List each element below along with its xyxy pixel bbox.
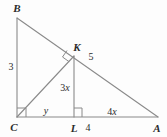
vertex-label-a: A	[153, 123, 160, 134]
vertex-label-l: L	[71, 123, 78, 134]
length-label-la: 4x	[107, 107, 116, 117]
vertex-label-k: K	[73, 42, 80, 53]
right-angle-mark-at-l	[74, 108, 82, 117]
geometry-figure: B K C L A 3 5 3x y 4 4x	[0, 0, 167, 137]
vertex-label-c: C	[10, 122, 17, 133]
length-label-kl: 3x	[60, 83, 69, 93]
length-label-cl: y	[44, 106, 48, 116]
right-angle-mark-at-k	[63, 51, 70, 62]
vertex-label-b: B	[13, 3, 20, 14]
length-label-kl-variable: x	[65, 82, 69, 93]
segment-ba	[17, 18, 158, 117]
length-label-ka: 5	[89, 52, 94, 62]
geometry-canvas	[0, 0, 167, 137]
length-label-la-segment: 4	[86, 123, 91, 133]
length-label-bc: 3	[9, 62, 14, 72]
length-label-la-variable: x	[112, 106, 116, 117]
